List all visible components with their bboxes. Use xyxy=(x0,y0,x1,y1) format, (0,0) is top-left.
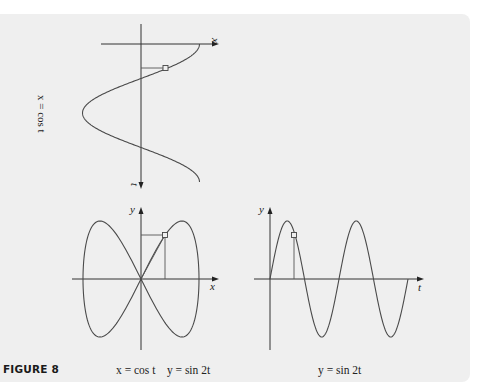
bl-point-marker xyxy=(163,233,168,238)
bl-caption-x: x = cos t xyxy=(116,364,155,376)
bl-x-axis-label: x xyxy=(209,280,215,292)
figure-8-diagram: x t x = cos t y x y t xyxy=(0,0,485,389)
top-side-label: x = cos t xyxy=(36,95,48,133)
figure-label: FIGURE 8 xyxy=(3,363,59,375)
br-caption: y = sin 2t xyxy=(318,364,361,376)
bl-radius-line xyxy=(141,235,165,279)
br-point-marker xyxy=(292,233,297,238)
bl-caption: x = cos t y = sin 2t xyxy=(116,364,210,376)
bl-caption-y: y = sin 2t xyxy=(167,364,210,376)
top-point-marker xyxy=(163,66,168,71)
top-graph: x t x = cos t xyxy=(36,24,222,189)
br-t-axis-label: t xyxy=(418,281,422,293)
bottom-left-graph: y x xyxy=(72,203,219,350)
top-x-axis-label: x xyxy=(210,37,222,43)
bl-y-axis-arrow-icon xyxy=(139,207,144,214)
top-t-axis-label: t xyxy=(129,183,141,187)
br-y-axis-arrow-icon xyxy=(268,207,273,214)
bottom-right-graph: y t xyxy=(254,203,424,350)
br-y-axis-label: y xyxy=(258,203,264,215)
bl-y-axis-label: y xyxy=(129,203,135,215)
